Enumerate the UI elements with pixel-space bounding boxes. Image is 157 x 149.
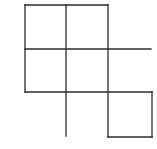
diagram-lines bbox=[25, 5, 152, 137]
grid-squares-diagram bbox=[0, 0, 157, 149]
